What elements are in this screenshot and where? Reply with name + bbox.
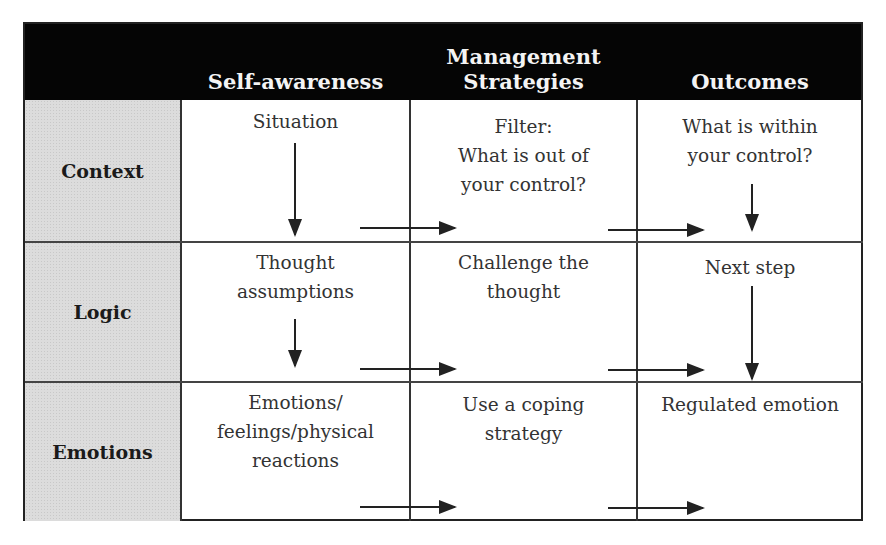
column-header-line: Management: [410, 44, 637, 69]
cell-text: strategy: [410, 419, 637, 448]
cell-text: Next step: [637, 253, 863, 282]
cell-thought-assumptions: Thought assumptions: [181, 248, 410, 306]
column-header-self-awareness: Self-awareness: [181, 69, 410, 94]
arrow-right-icon: [608, 369, 703, 371]
cell-text: Challenge the: [410, 248, 637, 277]
cell-challenge-thought: Challenge the thought: [410, 248, 637, 306]
column-header-management-strategies: Management Strategies: [410, 44, 637, 94]
cell-regulated-emotion: Regulated emotion: [637, 390, 863, 419]
cell-within-control: What is within your control?: [637, 112, 863, 170]
cell-text: Emotions/: [181, 388, 410, 417]
row-header-context: Context: [25, 100, 180, 242]
row-header-label: Context: [61, 160, 144, 182]
cell-text: thought: [410, 277, 637, 306]
arrow-right-icon: [608, 507, 703, 509]
cell-text: What is out of: [410, 141, 637, 170]
cell-situation: Situation: [181, 107, 410, 136]
cell-text: your control?: [637, 141, 863, 170]
row-divider: [25, 381, 863, 383]
row-header-logic: Logic: [25, 242, 180, 382]
arrow-right-icon: [360, 227, 455, 229]
arrow-down-icon: [294, 143, 296, 235]
cell-text: Thought: [181, 248, 410, 277]
cell-text: Situation: [181, 107, 410, 136]
row-header-label: Emotions: [52, 441, 152, 463]
table-header: Self-awareness Management Strategies Out…: [25, 24, 861, 100]
row-header-label: Logic: [73, 301, 131, 323]
cell-text: assumptions: [181, 277, 410, 306]
arrow-right-icon: [360, 368, 455, 370]
cell-filter: Filter: What is out of your control?: [410, 112, 637, 199]
arrow-down-icon: [751, 286, 753, 379]
column-header-outcomes: Outcomes: [637, 69, 863, 94]
row-header-emotions: Emotions: [25, 382, 180, 521]
cell-text: feelings/physical: [181, 417, 410, 446]
row-divider: [25, 241, 863, 243]
cell-text: Regulated emotion: [637, 390, 863, 419]
arrow-down-icon: [294, 319, 296, 366]
cell-text: your control?: [410, 170, 637, 199]
cell-text: What is within: [637, 112, 863, 141]
cell-coping-strategy: Use a coping strategy: [410, 390, 637, 448]
cell-emotions-feelings: Emotions/ feelings/physical reactions: [181, 388, 410, 475]
cell-next-step: Next step: [637, 253, 863, 282]
column-header-line: Strategies: [410, 69, 637, 94]
arrow-right-icon: [608, 229, 703, 231]
arrow-right-icon: [360, 506, 455, 508]
cell-text: Use a coping: [410, 390, 637, 419]
cell-text: reactions: [181, 446, 410, 475]
arrow-down-icon: [751, 184, 753, 230]
emotion-regulation-table: Self-awareness Management Strategies Out…: [23, 22, 863, 521]
cell-text: Filter:: [410, 112, 637, 141]
